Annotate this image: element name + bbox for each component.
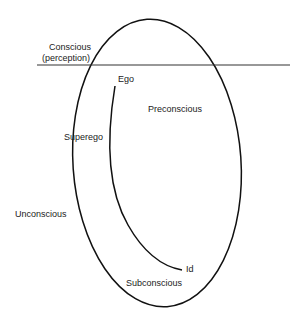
label-conscious: Conscious [40, 42, 100, 52]
label-subconscious: Subconscious [126, 278, 182, 288]
label-preconscious: Preconscious [148, 104, 202, 114]
label-ego: Ego [118, 74, 134, 84]
label-perception: (perception) [36, 53, 96, 63]
label-id: Id [186, 264, 194, 274]
label-unconscious: Unconscious [15, 209, 67, 219]
label-superego: Superego [64, 132, 103, 142]
